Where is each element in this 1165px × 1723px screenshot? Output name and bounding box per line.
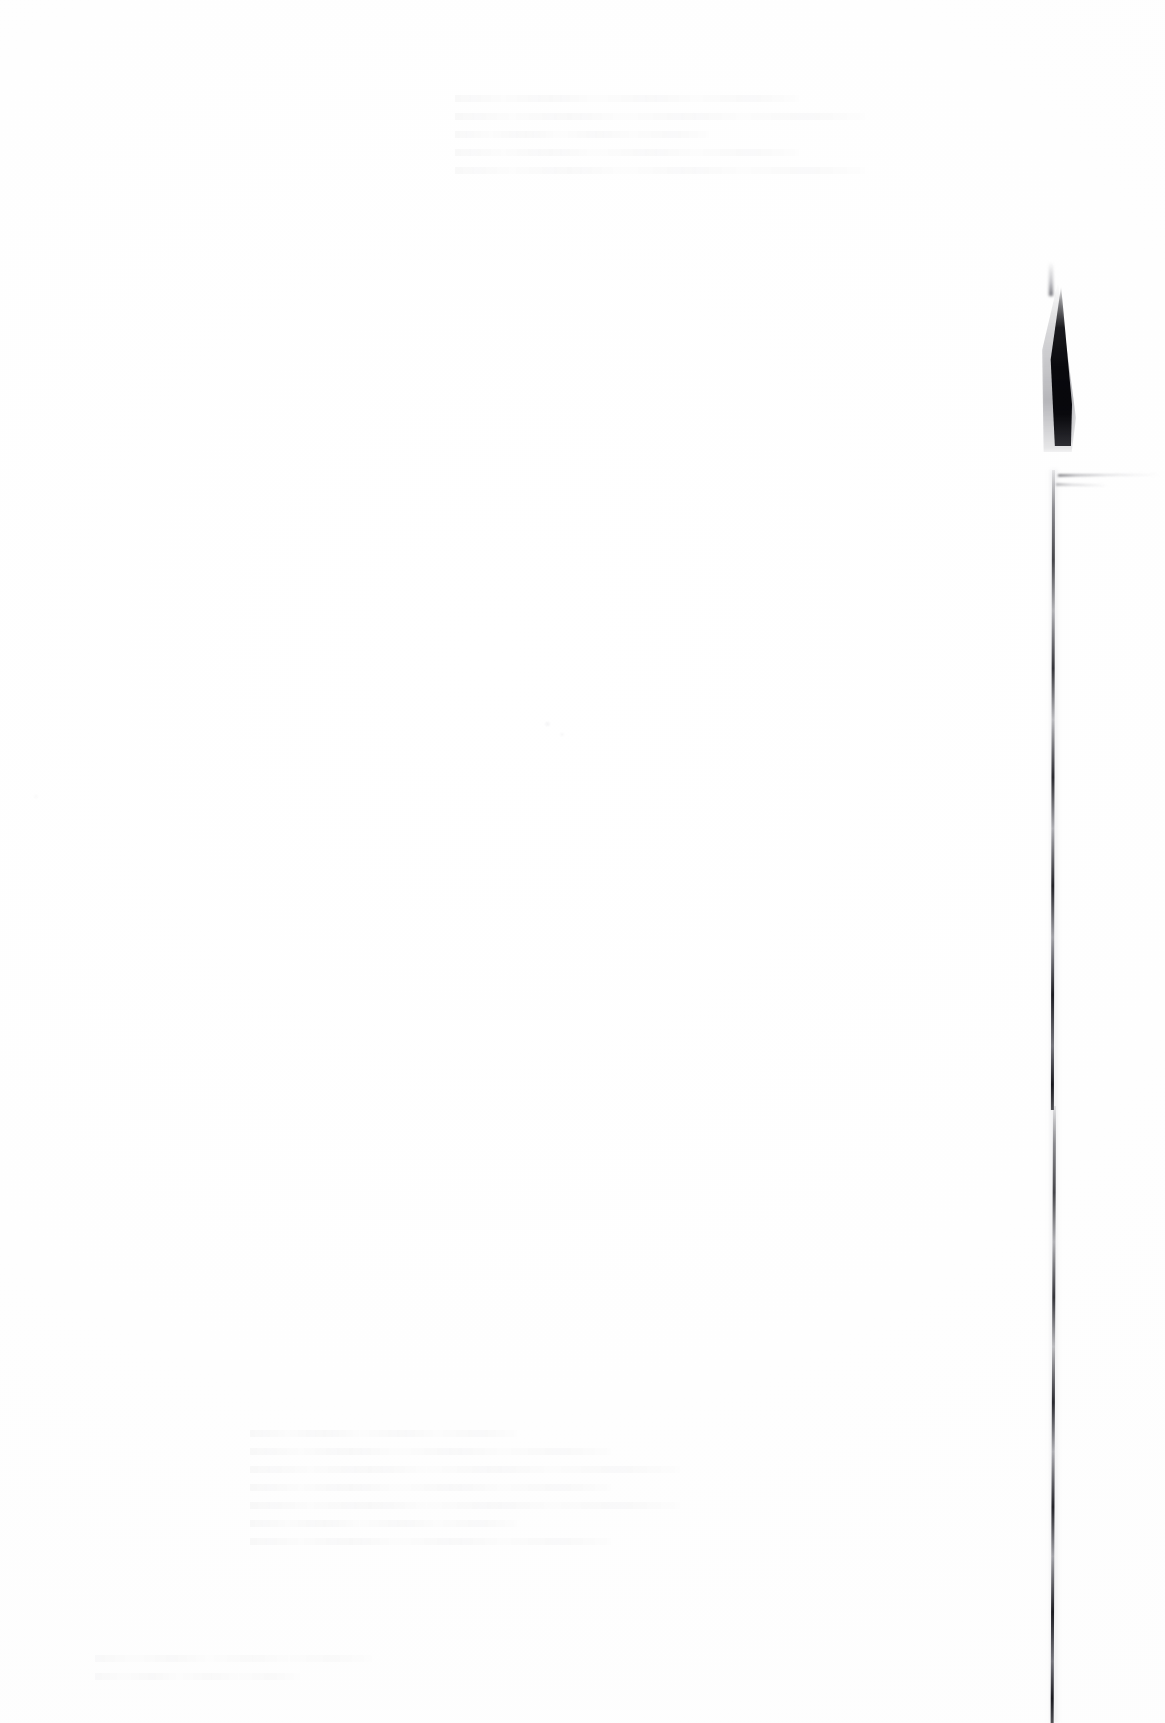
ghost-line: [250, 1520, 517, 1527]
folded-corner-tip: [1049, 262, 1053, 296]
ghost-line: [250, 1466, 680, 1473]
ghost-line: [455, 167, 865, 174]
ghost-line: [250, 1430, 517, 1437]
ghost-text-middle: [250, 1430, 680, 1556]
ghost-heading: [340, 702, 660, 736]
ghost-line: [250, 1502, 680, 1509]
dust-speck: [545, 722, 550, 726]
ghost-text-top: [455, 95, 865, 185]
ghost-line: [455, 113, 865, 120]
ghost-line: [455, 149, 799, 156]
ghost-line: [95, 1655, 372, 1662]
ghost-line: [250, 1448, 611, 1455]
ghost-line: [455, 95, 799, 102]
scanned-page: [0, 0, 1165, 1723]
dust-speck: [34, 795, 38, 798]
dust-speck: [560, 733, 564, 736]
ghost-line: [95, 1673, 300, 1680]
ghost-line: [455, 131, 709, 138]
ghost-line: [250, 1484, 611, 1491]
ghost-line: [250, 1538, 611, 1545]
ghost-text-lower: [95, 1655, 425, 1691]
